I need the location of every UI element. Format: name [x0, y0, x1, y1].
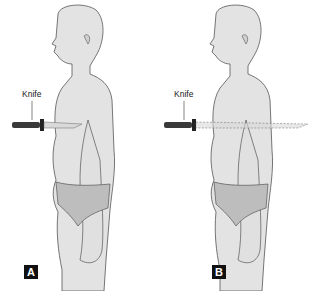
panel-badge-b: B: [212, 265, 226, 279]
human-figure-illustration: [158, 0, 316, 291]
knife-label: Knife: [22, 89, 41, 99]
human-figure-illustration: [0, 0, 158, 291]
knife-label: Knife: [174, 89, 193, 99]
panel-b: Knife B: [158, 0, 316, 291]
panel-badge-a: A: [24, 265, 38, 279]
panel-a: Knife A: [0, 0, 158, 291]
